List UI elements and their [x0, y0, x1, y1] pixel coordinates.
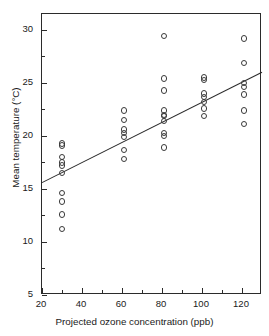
data-point-marker — [161, 144, 167, 150]
y-tick-label: 10 — [0, 236, 33, 246]
data-point-marker — [161, 112, 167, 118]
data-point-marker — [201, 77, 207, 83]
data-point-marker — [161, 87, 167, 93]
x-tick-label: 120 — [233, 299, 249, 309]
data-point-marker — [121, 147, 127, 153]
data-point-marker — [121, 117, 127, 123]
data-point-marker — [241, 91, 247, 97]
data-point-marker — [161, 33, 167, 39]
data-point-marker — [201, 113, 207, 119]
data-point-marker — [59, 226, 65, 232]
x-tick-label: 40 — [76, 299, 87, 309]
x-tick-label: 20 — [36, 299, 47, 309]
x-tick-label: 80 — [156, 299, 167, 309]
data-point-marker — [241, 107, 247, 113]
x-axis-title: Projected ozone concentration (ppb) — [0, 316, 269, 327]
data-points-layer — [42, 14, 260, 293]
data-point-marker — [59, 162, 65, 168]
y-tick-label: 30 — [0, 24, 33, 34]
data-point-marker — [241, 121, 247, 127]
data-point-marker — [241, 84, 247, 90]
scatter-plot-figure: 2040608010012051015202530 Projected ozon… — [0, 0, 269, 336]
data-point-marker — [59, 190, 65, 196]
data-point-marker — [241, 60, 247, 66]
data-point-marker — [121, 107, 127, 113]
plot-frame — [41, 13, 261, 294]
y-tick-major — [42, 295, 47, 296]
y-tick-label: 5 — [0, 289, 33, 299]
data-point-marker — [161, 133, 167, 139]
x-tick-label: 100 — [193, 299, 209, 309]
data-point-marker — [59, 211, 65, 217]
data-point-marker — [161, 118, 167, 124]
data-point-marker — [121, 156, 127, 162]
data-point-marker — [161, 75, 167, 81]
data-point-marker — [201, 105, 207, 111]
data-point-marker — [121, 134, 127, 140]
data-point-marker — [59, 198, 65, 204]
data-point-marker — [241, 35, 247, 41]
data-point-marker — [59, 170, 65, 176]
y-axis-title: Mean temperature (°C) — [10, 68, 21, 208]
data-point-marker — [59, 142, 65, 148]
x-tick-label: 60 — [116, 299, 127, 309]
